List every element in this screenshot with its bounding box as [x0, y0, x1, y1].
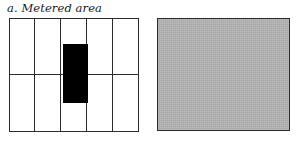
grid-cell [87, 18, 113, 75]
figure-root: a. Metered area b. Average tone [0, 0, 296, 142]
panel-a-caption: a. Metered area [7, 1, 102, 15]
grid-cell [113, 75, 139, 132]
panel-metered-area: a. Metered area [0, 0, 148, 142]
grid-cell [35, 18, 61, 75]
grid-cell [35, 75, 61, 132]
grid-cell [87, 75, 113, 132]
grid-cell [113, 18, 139, 75]
grid-cell [9, 75, 35, 132]
metered-area-grid [9, 18, 139, 132]
average-tone-swatch [157, 18, 290, 131]
metered-patch [63, 44, 88, 103]
grid-cell [9, 18, 35, 75]
